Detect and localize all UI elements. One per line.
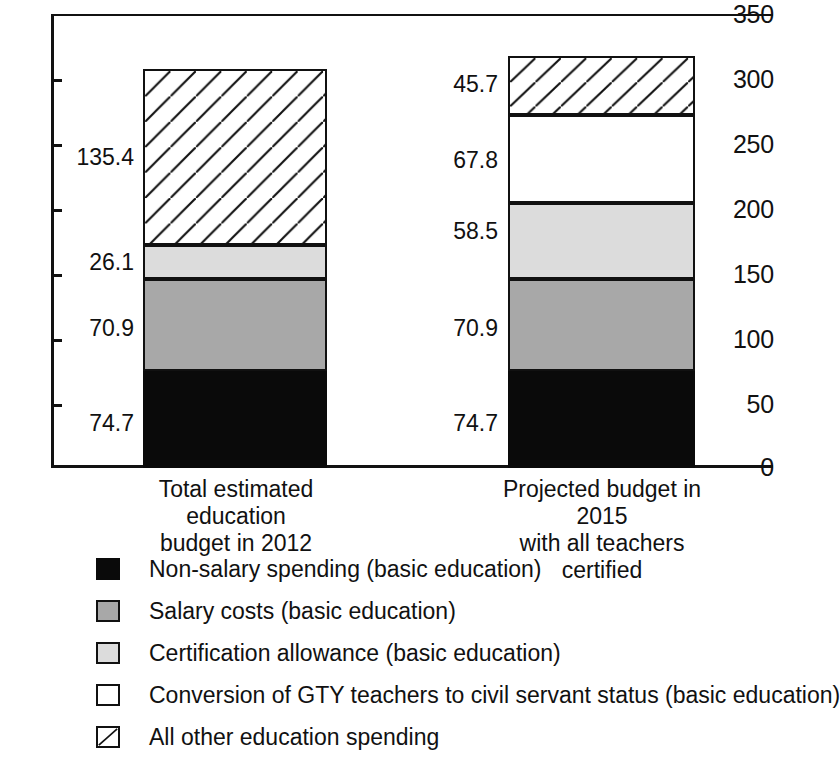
diagonal-hatch-pattern-icon	[145, 71, 325, 243]
legend-label-non-salary: Non-salary spending (basic education)	[149, 558, 542, 581]
bar-2015-value-non-salary: 74.7	[410, 412, 498, 435]
bar-2015-segment-other	[508, 56, 695, 115]
legend-item-conversion: Conversion of GTY teachers to civil serv…	[96, 674, 774, 716]
category-label-2012-line1: Total estimated education	[120, 476, 352, 530]
diagonal-line-icon	[98, 728, 118, 746]
bar-2015-value-conversion: 67.8	[410, 149, 498, 172]
bar-2012-value-certification: 26.1	[62, 251, 134, 274]
legend-label-conversion: Conversion of GTY teachers to civil serv…	[149, 684, 840, 707]
bar-2012-segment-non-salary	[143, 371, 327, 468]
bar-2012	[143, 69, 327, 468]
legend-label-certification: Certification allowance (basic education…	[149, 642, 561, 665]
legend-swatch-light-gray-icon	[96, 642, 120, 664]
legend-label-other: All other education spending	[149, 726, 439, 749]
bar-2015-value-other: 45.7	[410, 73, 498, 96]
bar-2012-value-non-salary: 74.7	[62, 412, 134, 435]
legend-item-non-salary: Non-salary spending (basic education)	[96, 548, 774, 590]
bar-2015-value-certification: 58.5	[410, 220, 498, 243]
bar-2012-value-other: 135.4	[38, 146, 134, 169]
legend-item-certification: Certification allowance (basic education…	[96, 632, 774, 674]
bar-2012-segment-other	[143, 69, 327, 245]
bar-2015-segment-certification	[508, 203, 695, 279]
legend-swatch-white-icon	[96, 684, 120, 706]
legend-label-salary: Salary costs (basic education)	[149, 600, 456, 623]
bar-2015-segment-non-salary	[508, 371, 695, 468]
bar-2015-value-salary: 70.9	[410, 317, 498, 340]
legend-swatch-hatched-icon	[96, 726, 120, 748]
category-label-2015-line1: Projected budget in 2015	[486, 476, 718, 530]
bar-2012-segment-certification	[143, 245, 327, 279]
legend-item-other: All other education spending	[96, 716, 774, 758]
bar-2012-segment-salary	[143, 279, 327, 371]
bar-2015-segment-conversion	[508, 115, 695, 203]
bar-2015-segment-salary	[508, 279, 695, 371]
category-label-2012: Total estimated education budget in 2012	[120, 476, 352, 557]
legend-swatch-black-icon	[96, 558, 120, 580]
bar-2012-value-salary: 70.9	[62, 317, 134, 340]
bar-2015	[508, 56, 695, 468]
chart-legend: Non-salary spending (basic education) Sa…	[96, 548, 774, 758]
legend-swatch-medium-gray-icon	[96, 600, 120, 622]
legend-item-salary: Salary costs (basic education)	[96, 590, 774, 632]
diagonal-hatch-pattern-icon	[510, 58, 693, 113]
